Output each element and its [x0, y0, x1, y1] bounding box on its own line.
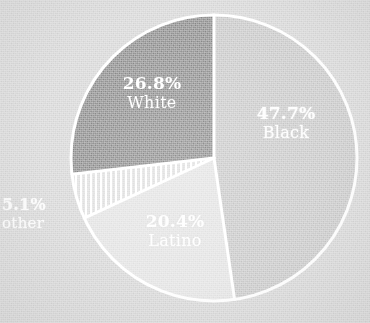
pie-label-latino-percent: 20.4%: [126, 212, 224, 231]
pie-label-white-category: White: [104, 94, 200, 112]
pie-label-black: 47.7% Black: [243, 104, 329, 142]
pie-label-black-category: Black: [243, 124, 329, 142]
pie-label-black-percent: 47.7%: [243, 104, 329, 123]
pie-chart-canvas: [0, 0, 370, 323]
pie-label-latino: 20.4% Latino: [126, 212, 224, 250]
pie-slice-black[interactable]: [214, 15, 357, 300]
pie-label-latino-category: Latino: [126, 232, 224, 250]
pie-label-other-percent: 5.1%: [2, 196, 76, 214]
pie-label-other: 5.1% other: [2, 196, 76, 232]
pie-label-white-percent: 26.8%: [104, 74, 200, 93]
pie-label-other-category: other: [2, 215, 76, 232]
pie-label-white: 26.8% White: [104, 74, 200, 112]
pie-chart-figure: 47.7% Black 26.8% White 20.4% Latino 5.1…: [0, 0, 370, 323]
